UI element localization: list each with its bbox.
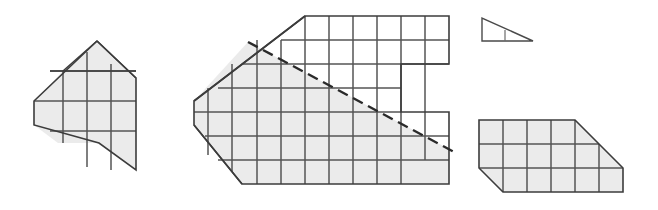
shape-4-beveled-trapezoid-right bbox=[479, 120, 623, 192]
figure-canvas: Dissection puzzle figure with four grid-… bbox=[0, 0, 658, 210]
shape-1-pentagon-left bbox=[34, 41, 136, 170]
shape-1-fill bbox=[34, 41, 136, 170]
shape-3-small-right-triangle bbox=[482, 18, 533, 41]
shape-2-notched-polygon-center bbox=[194, 16, 456, 184]
shapes-figure-svg: Dissection puzzle figure with four grid-… bbox=[0, 0, 658, 210]
